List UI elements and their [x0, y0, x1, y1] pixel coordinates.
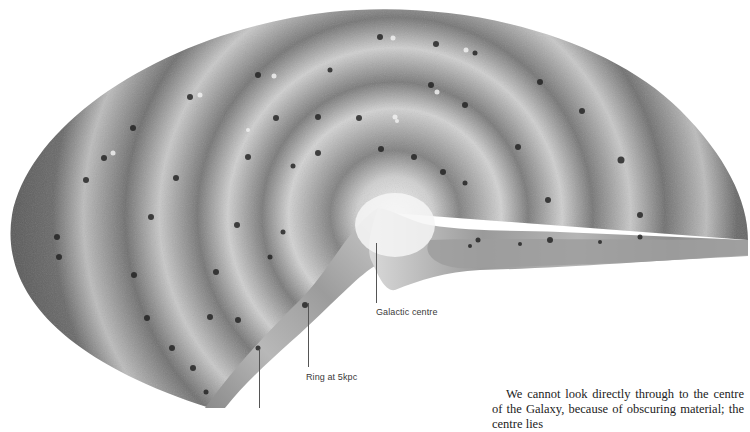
body-paragraph: We cannot look directly through to the c…: [492, 387, 744, 432]
ring-5kpc-label: Ring at 5kpc: [306, 372, 357, 382]
galactic-centre-leader-line: [376, 243, 377, 303]
galactic-centre-label: Galactic centre: [376, 307, 438, 317]
ring-5kpc-leader-line: [308, 303, 309, 367]
disk-cross-section-right: [427, 239, 748, 268]
ring-leader-line-lower: [259, 349, 260, 408]
